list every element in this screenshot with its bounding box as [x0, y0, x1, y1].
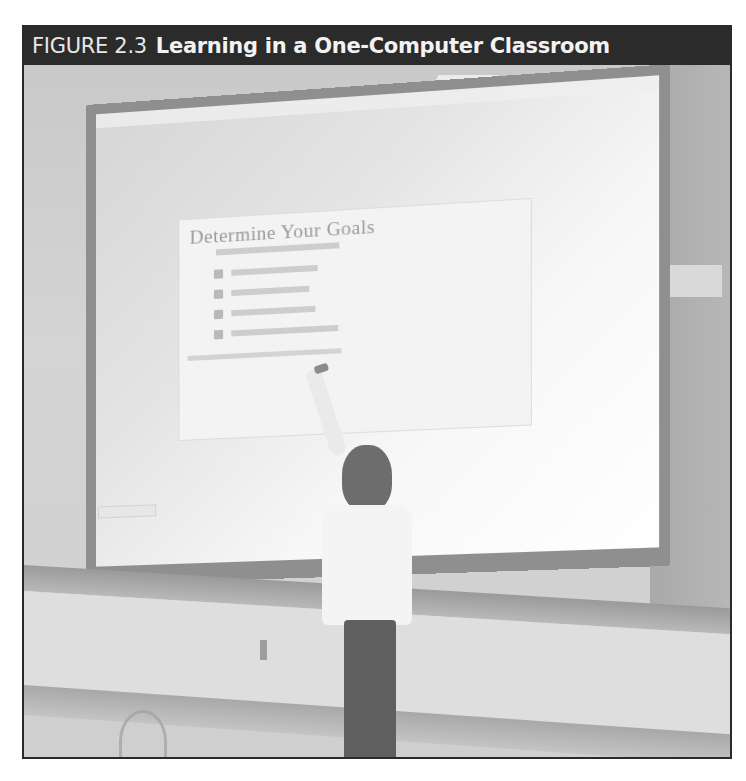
figure-label: FIGURE 2.3 — [32, 34, 147, 58]
bullet-text-illegible — [231, 306, 315, 317]
classroom-photo: Determine Your Goals — [24, 65, 730, 757]
teacher — [304, 365, 424, 759]
teacher-torso — [322, 505, 412, 625]
bullet-icon — [214, 269, 223, 279]
figure-caption-bar: FIGURE 2.3 Learning in a One-Computer Cl… — [24, 27, 730, 65]
teacher-hand — [313, 363, 329, 375]
teacher-head — [342, 445, 392, 511]
screen-top-bar — [96, 75, 659, 128]
bullet-icon — [214, 289, 223, 299]
bullet-icon — [214, 329, 223, 339]
bullet-icon — [214, 309, 223, 319]
slide-footer-illegible — [188, 348, 342, 361]
bullet-text-illegible — [231, 265, 317, 276]
slide-control-bar — [98, 504, 156, 518]
slide-title: Determine Your Goals — [190, 208, 521, 247]
bullet-text-illegible — [231, 286, 309, 296]
teacher-raised-arm — [305, 367, 348, 458]
figure: FIGURE 2.3 Learning in a One-Computer Cl… — [22, 25, 732, 759]
wall-switch — [260, 640, 267, 660]
bullet-text-illegible — [231, 325, 338, 337]
figure-title: Learning in a One-Computer Classroom — [156, 34, 610, 58]
wall-panel — [664, 265, 722, 297]
teacher-legs — [344, 620, 396, 759]
slide-bullet-list — [214, 246, 520, 344]
